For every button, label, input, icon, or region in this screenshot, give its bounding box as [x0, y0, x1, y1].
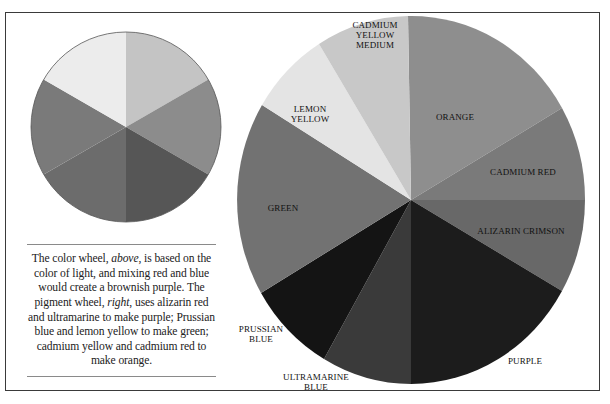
caption-emphasis-right: right	[107, 296, 129, 309]
label-line: YELLOW	[352, 30, 397, 40]
label-alizarin-crimson: ALIZARIN CRIMSON	[477, 226, 564, 236]
label-purple: PURPLE	[508, 356, 542, 366]
label-line: BLUE	[239, 334, 283, 344]
label-orange: ORANGE	[436, 112, 474, 122]
pigment-color-wheel	[237, 16, 585, 384]
label-cadmium-yellow-medium: CADMIUM YELLOW MEDIUM	[352, 20, 397, 50]
caption-text: The color wheel, above, is based on the …	[27, 252, 216, 369]
label-lemon-yellow: LEMON YELLOW	[291, 104, 330, 124]
label-line: BLUE	[283, 382, 349, 392]
caption-emphasis-above: above	[111, 252, 138, 265]
label-line: YELLOW	[291, 114, 330, 124]
caption-part: The color wheel,	[32, 252, 111, 265]
label-prussian-blue: PRUSSIAN BLUE	[239, 324, 283, 344]
label-line: LEMON	[291, 104, 330, 114]
label-cadmium-red: CADMIUM RED	[490, 167, 556, 177]
label-line: CADMIUM	[352, 20, 397, 30]
label-line: PRUSSIAN	[239, 324, 283, 334]
label-line: ULTRAMARINE	[283, 372, 349, 382]
label-green: GREEN	[268, 203, 299, 213]
light-color-wheel	[31, 32, 221, 222]
caption-block: The color wheel, above, is based on the …	[27, 244, 216, 377]
label-line: MEDIUM	[352, 40, 397, 50]
label-ultramarine-blue: ULTRAMARINE BLUE	[283, 372, 349, 392]
